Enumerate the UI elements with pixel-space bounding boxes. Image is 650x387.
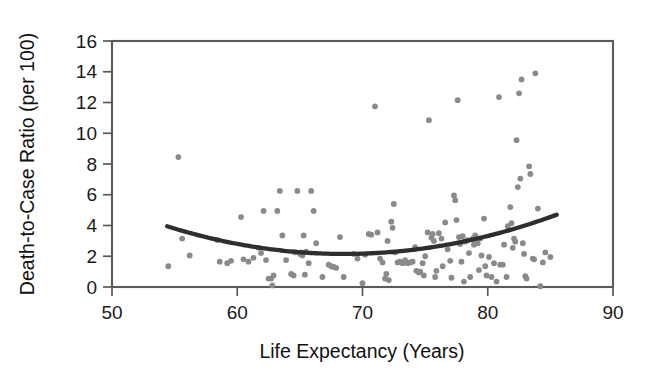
- data-point: [380, 260, 386, 266]
- data-point: [385, 238, 391, 244]
- data-point: [430, 231, 436, 237]
- data-point: [516, 90, 522, 96]
- data-point: [179, 236, 185, 242]
- data-point: [467, 274, 473, 280]
- y-tick-label: 16: [76, 31, 97, 52]
- data-point: [269, 283, 275, 289]
- y-tick-label: 10: [76, 123, 97, 144]
- data-point: [425, 230, 431, 236]
- data-point: [308, 188, 314, 194]
- scatter-points: [165, 70, 553, 289]
- data-point: [459, 259, 465, 265]
- data-point: [337, 234, 343, 240]
- data-point: [527, 171, 533, 177]
- data-point: [372, 103, 378, 109]
- data-point: [375, 230, 381, 236]
- data-point: [489, 274, 495, 280]
- data-point: [440, 263, 446, 269]
- data-point: [482, 263, 488, 269]
- data-point: [306, 260, 312, 266]
- data-point: [390, 225, 396, 231]
- data-point: [436, 230, 442, 236]
- data-point: [500, 262, 506, 268]
- data-point: [422, 253, 428, 259]
- x-tick-label: 50: [101, 302, 122, 323]
- data-point: [431, 238, 437, 244]
- plot-border: [112, 41, 613, 287]
- data-point: [445, 246, 451, 252]
- data-point: [460, 233, 466, 239]
- x-axis-title: Life Expectancy (Years): [259, 340, 464, 362]
- data-point: [532, 70, 538, 76]
- data-point: [501, 242, 507, 248]
- scatter-chart-figure: 5060708090 0246810121416 Life Expectancy…: [0, 0, 650, 387]
- data-point: [537, 283, 543, 289]
- data-point: [491, 260, 497, 266]
- data-point: [313, 240, 319, 246]
- data-point: [540, 260, 546, 266]
- data-point: [479, 253, 485, 259]
- fit-curve: [167, 215, 557, 254]
- data-point: [241, 256, 247, 262]
- y-axis-title: Death-to-Case Ratio (per 100): [16, 33, 38, 295]
- data-point: [263, 257, 269, 263]
- chart-canvas: 5060708090 0246810121416 Life Expectancy…: [0, 0, 650, 387]
- data-point: [476, 267, 482, 273]
- data-point: [410, 259, 416, 265]
- data-point: [261, 208, 267, 214]
- data-point: [291, 273, 297, 279]
- data-point: [519, 77, 525, 83]
- data-point: [251, 255, 257, 261]
- data-point: [509, 220, 515, 226]
- data-point: [302, 272, 308, 278]
- data-point: [238, 214, 244, 220]
- data-point: [165, 263, 171, 269]
- data-point: [368, 232, 374, 238]
- data-point: [274, 208, 280, 214]
- y-tick-label: 8: [86, 154, 97, 175]
- data-point: [388, 219, 394, 225]
- y-tick-label: 2: [86, 246, 97, 267]
- data-point: [494, 279, 500, 285]
- data-point: [426, 117, 432, 123]
- data-point: [454, 217, 460, 223]
- data-point: [341, 274, 347, 280]
- data-point: [279, 233, 285, 239]
- data-point: [521, 251, 527, 257]
- data-point: [420, 260, 426, 266]
- data-point: [432, 274, 438, 280]
- data-point: [301, 233, 307, 239]
- data-point: [515, 184, 521, 190]
- data-point: [277, 188, 283, 194]
- data-point: [442, 220, 448, 226]
- data-point: [294, 188, 300, 194]
- data-point: [517, 176, 523, 182]
- y-axis-ticks: 0246810121416: [76, 31, 112, 298]
- x-tick-label: 70: [352, 302, 373, 323]
- data-point: [360, 280, 366, 286]
- data-point: [355, 256, 361, 262]
- x-tick-label: 90: [602, 302, 623, 323]
- data-point: [246, 259, 252, 265]
- data-point: [187, 253, 193, 259]
- data-point: [520, 240, 526, 246]
- data-point: [439, 236, 445, 242]
- x-tick-label: 80: [477, 302, 498, 323]
- data-point: [175, 154, 181, 160]
- data-point: [283, 257, 289, 263]
- y-tick-label: 14: [76, 61, 98, 82]
- data-point: [466, 250, 472, 256]
- y-tick-label: 6: [86, 184, 97, 205]
- data-point: [455, 97, 461, 103]
- data-point: [386, 277, 392, 283]
- data-point: [510, 245, 516, 251]
- data-point: [507, 204, 513, 210]
- data-point: [447, 258, 453, 264]
- x-tick-label: 60: [227, 302, 248, 323]
- data-point: [217, 259, 223, 265]
- data-point: [496, 94, 502, 100]
- plot-frame: [112, 41, 613, 287]
- data-point: [228, 258, 234, 264]
- data-point: [271, 273, 277, 279]
- data-point: [320, 274, 326, 280]
